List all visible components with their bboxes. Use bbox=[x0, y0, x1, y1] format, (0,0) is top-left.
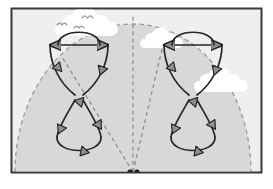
wind-window-diagram bbox=[0, 0, 273, 189]
kite-wind-window-figure: Kite figure-eight flight paths in the wi… bbox=[0, 0, 273, 189]
